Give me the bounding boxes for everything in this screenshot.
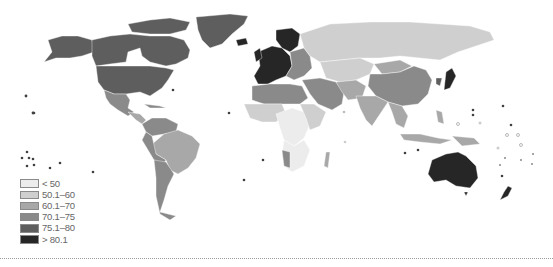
- legend-swatch: [20, 213, 39, 222]
- region-namibia: [282, 150, 290, 168]
- region-tasmania: [464, 192, 468, 196]
- region-india: [356, 96, 388, 126]
- legend-item-50-60: 50.1–60: [20, 189, 75, 200]
- legend-item-60-70: 60.1–70: [20, 200, 75, 211]
- dotted-divider: [0, 258, 553, 259]
- legend-label: > 80.1: [42, 235, 67, 245]
- region-southeast-asia: [388, 102, 408, 128]
- region-australia: [428, 152, 478, 188]
- legend-swatch: [20, 191, 39, 200]
- region-north-africa: [252, 84, 308, 104]
- legend: < 50 50.1–60 60.1–70 70.1–75 75.1–80 > 8…: [20, 178, 75, 245]
- region-philippines: [436, 110, 444, 124]
- region-caribbean: [144, 104, 166, 108]
- legend-label: 50.1–60: [42, 190, 75, 200]
- legend-item-75-80: 75.1–80: [20, 223, 75, 234]
- region-new-zealand: [500, 186, 512, 200]
- region-arctic-islands: [128, 18, 190, 34]
- legend-swatch: [20, 224, 39, 233]
- world-map: [0, 0, 553, 245]
- region-madagascar: [324, 152, 330, 168]
- region-canada: [92, 34, 190, 66]
- legend-swatch: [20, 179, 39, 188]
- region-korea: [436, 78, 442, 86]
- region-central-asia: [320, 58, 374, 82]
- region-japan: [444, 68, 456, 90]
- legend-item-70-75: 70.1–75: [20, 212, 75, 223]
- legend-label: 75.1–80: [42, 223, 75, 233]
- legend-swatch: [20, 235, 39, 244]
- region-russia: [300, 22, 494, 62]
- region-png: [452, 136, 480, 146]
- legend-label: 70.1–75: [42, 212, 75, 222]
- legend-swatch: [20, 202, 39, 211]
- legend-label: < 50: [42, 179, 60, 189]
- region-central-america: [128, 112, 146, 124]
- legend-label: 60.1–70: [42, 201, 75, 211]
- region-alaska: [44, 36, 94, 62]
- legend-item-lt50: < 50: [20, 178, 75, 189]
- legend-item-gt80: > 80.1: [20, 234, 75, 245]
- region-indonesia: [400, 134, 452, 144]
- region-iceland: [236, 38, 248, 46]
